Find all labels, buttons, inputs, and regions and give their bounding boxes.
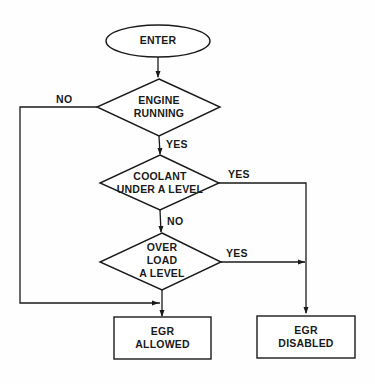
engine-running-node-label: ENGINE RUNNING: [119, 94, 199, 120]
egr-disabled-line-2: DISABLED: [257, 337, 355, 350]
arrow-icon: [159, 226, 164, 233]
edge-label-coolant-no: NO: [167, 216, 183, 227]
egr-disabled-node-label: EGR DISABLED: [257, 324, 355, 350]
edge-label-engine-no: NO: [56, 94, 72, 105]
enter-node-label: ENTER: [118, 34, 198, 47]
egr-allowed-line-1: EGR: [114, 325, 211, 338]
arrow-icon: [298, 260, 305, 265]
overload-node-label: OVER LOAD A LEVEL: [122, 241, 202, 280]
egr-allowed-line-2: ALLOWED: [114, 338, 211, 351]
arrow-icon: [152, 301, 159, 306]
overload-line-2: LOAD: [122, 254, 202, 267]
enter-text: ENTER: [118, 34, 198, 47]
arrow-icon: [156, 71, 161, 78]
coolant-line-1: COOLANT: [110, 170, 210, 183]
edge-label-coolant-yes: YES: [228, 169, 250, 180]
egr-allowed-node-label: EGR ALLOWED: [114, 325, 211, 351]
coolant-line-2: UNDER A LEVEL: [110, 183, 210, 196]
coolant-node-label: COOLANT UNDER A LEVEL: [110, 170, 210, 196]
edge-label-engine-yes: YES: [166, 139, 188, 150]
engine-running-line-1: ENGINE: [119, 94, 199, 107]
arrow-icon: [304, 307, 309, 314]
overload-line-1: OVER: [122, 241, 202, 254]
egr-disabled-line-1: EGR: [257, 324, 355, 337]
overload-line-3: A LEVEL: [122, 267, 202, 280]
arrow-icon: [160, 310, 165, 317]
arrow-icon: [158, 148, 163, 155]
edge-label-overload-yes: YES: [226, 248, 248, 259]
engine-running-line-2: RUNNING: [119, 107, 199, 120]
